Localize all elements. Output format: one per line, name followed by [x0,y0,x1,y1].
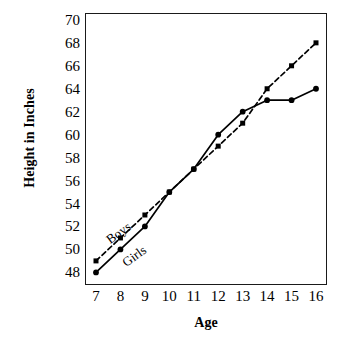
data-point-marker-girls [118,247,124,253]
data-point-marker-girls [215,132,221,138]
data-point-marker-girls [142,224,148,230]
y-tick-label: 70 [46,12,80,27]
plot-series-canvas [85,13,327,285]
y-tick-label: 48 [46,265,80,280]
data-point-marker-girls [240,109,246,115]
line-chart-figure: Height in Inches 70686664626058565452504… [0,0,340,345]
data-point-marker-girls [191,166,197,172]
y-tick-label: 64 [46,81,80,96]
y-tick-label: 56 [46,173,80,188]
data-point-marker-boys [314,40,319,45]
data-point-marker-boys [240,121,245,126]
data-point-marker-girls [264,97,270,103]
x-axis-tick-labels: 78910111213141516 [0,289,340,309]
y-tick-label: 60 [46,127,80,142]
series-line-girls [96,89,316,273]
y-tick-label: 66 [46,58,80,73]
y-tick-label: 52 [46,219,80,234]
y-tick-label: 54 [46,196,80,211]
data-point-marker-girls [93,269,99,275]
data-point-marker-girls [313,86,319,92]
y-tick-label: 68 [46,35,80,50]
y-tick-label: 50 [46,242,80,257]
data-point-marker-boys [265,86,270,91]
data-point-marker-boys [142,212,147,217]
y-tick-label: 58 [46,150,80,165]
data-point-marker-boys [94,258,99,263]
y-tick-label: 62 [46,104,80,119]
data-point-marker-girls [166,189,172,195]
x-tick-label: 16 [299,289,333,304]
data-point-marker-girls [289,97,295,103]
data-point-marker-boys [289,63,294,68]
x-axis-title: Age [85,315,327,331]
data-point-marker-boys [216,144,221,149]
y-axis-title: Height in Inches [22,48,38,228]
